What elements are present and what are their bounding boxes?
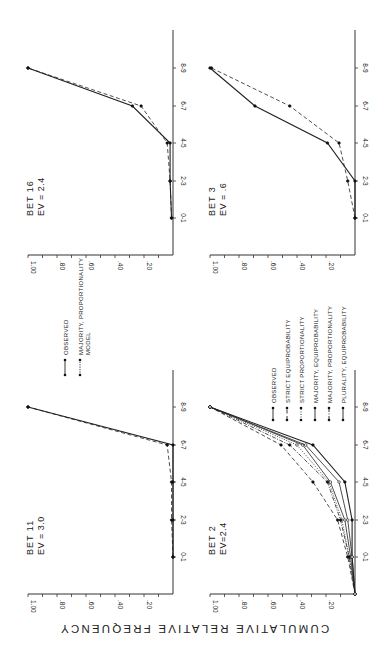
value-tick-label: 1.00 [30,600,37,613]
data-point-marker [169,180,172,183]
category-tick-label: 2-3 [362,176,369,186]
data-point-marker [209,406,212,409]
category-tick-label: 6-7 [362,101,369,111]
category-tick-label: 2-3 [362,515,369,525]
category-tick-label: 0-1 [180,213,187,223]
series-line-majority-equiprobability [210,407,355,594]
series-line-majority-proportionality-model [28,68,172,218]
value-tick-label: .20 [328,600,335,609]
series-line-observed [28,407,173,557]
data-point-marker [254,105,257,108]
data-point-marker [338,481,341,484]
data-point-marker [170,519,173,522]
data-point-marker [354,180,357,183]
legend-entry-label: OBSERVED [63,319,69,355]
legend: OBSERVEDSTRICT EQUIPROBABILITYSTRICT PRO… [271,306,347,422]
category-tick-label: 0-1 [362,552,369,562]
legend-entry-label: MAJORITY, EQUIPROBABILITY [313,309,319,403]
series-line-observed [210,68,355,218]
value-tick-label: .40 [299,600,306,609]
data-point-marker [170,217,173,220]
legend-entry-label: OBSERVED [271,367,277,403]
data-point-marker [288,105,291,108]
value-tick-label: .60 [270,261,277,270]
data-point-marker [170,481,173,484]
panel-subtitle: EV = 2.4 [36,177,46,216]
category-tick-label: 2-3 [180,176,187,186]
value-tick-label: .20 [146,261,153,270]
panel-subtitle: EV = 3.0 [36,516,46,555]
category-tick-label: 8-9 [180,63,187,73]
data-point-marker [27,67,30,70]
chart-panel-bet16: .20.40.60.801.000-12-34-56-78-9BET 16EV … [25,30,187,274]
category-tick-label: 4-5 [362,138,369,148]
panel-title: BET 2 [207,525,217,555]
value-tick-label: .40 [117,600,124,609]
series-line-strict-equiprobability [210,407,355,594]
value-tick-label: .80 [241,600,248,609]
data-point-marker [329,481,332,484]
value-tick-label: 1.00 [212,261,219,274]
legend-entry-label: MAJORITY, PROPORTIONALITY [327,306,333,403]
panel-title: BET 3 [207,186,217,216]
data-point-marker [351,519,354,522]
data-point-marker [326,142,329,145]
value-tick-label: 1.00 [212,600,219,613]
data-point-marker [344,481,347,484]
panel-subtitle: EV = .6 [218,183,228,216]
value-tick-label: .60 [88,261,95,270]
data-point-marker [312,481,315,484]
data-point-marker [27,406,30,409]
category-tick-label: 6-7 [180,440,187,450]
value-tick-label: .60 [88,600,95,609]
figure: .20.40.60.801.000-12-34-56-78-9BET 11EV … [0,0,388,654]
category-tick-label: 4-5 [180,477,187,487]
category-tick-label: 4-5 [180,138,187,148]
data-point-marker [354,217,357,220]
category-tick-label: 6-7 [362,440,369,450]
data-point-marker [344,519,347,522]
data-point-marker [140,105,143,108]
data-point-marker [131,105,134,108]
data-point-marker [339,519,342,522]
data-point-marker [326,481,329,484]
data-point-marker [338,142,341,145]
legend: OBSERVEDMAJORITY, PROPORTIONALITYMODEL [63,258,91,377]
value-tick-label: .40 [117,261,124,270]
data-point-marker [296,444,299,447]
series-line-majority-proportionality-model [28,407,173,557]
data-point-marker [354,593,357,596]
data-point-marker [280,444,283,447]
category-tick-label: 8-9 [362,402,369,412]
category-tick-label: 0-1 [362,213,369,223]
value-tick-label: .80 [59,600,66,609]
category-tick-label: 8-9 [362,63,369,73]
series-line-observed [28,68,172,218]
data-point-marker [169,142,172,145]
series-line-strict-proportionality [210,407,355,594]
data-point-marker [348,556,351,559]
legend-entry-label: PLURALITY, EQUIPROBABILITY [341,306,347,403]
value-tick-label: .60 [270,600,277,609]
series-line-majority-proportionality-model [211,68,355,218]
rotated-figure-canvas: .20.40.60.801.000-12-34-56-78-9BET 11EV … [0,0,388,654]
legend-entry-label: STRICT PROPORTIONALITY [299,316,305,403]
data-point-marker [336,519,339,522]
data-point-marker [288,444,291,447]
data-point-marker [351,556,354,559]
data-point-marker [304,444,307,447]
category-tick-label: 6-7 [180,101,187,111]
value-tick-label: .20 [146,600,153,609]
value-tick-label: .40 [299,261,306,270]
legend-entry-label: MODEL [85,332,91,355]
value-tick-label: .80 [241,261,248,270]
value-tick-label: .20 [328,261,335,270]
category-tick-label: 4-5 [362,477,369,487]
value-tick-label: .80 [59,261,66,270]
category-tick-label: 8-9 [180,402,187,412]
y-axis-title: CUMULATIVE RELATIVE FREQUENCY [59,623,329,635]
data-point-marker [172,556,175,559]
panel-title: BET 16 [25,180,35,216]
series-line-majority-proportionality [210,407,355,594]
legend-entry-label: MAJORITY, PROPORTIONALITY [78,258,84,355]
